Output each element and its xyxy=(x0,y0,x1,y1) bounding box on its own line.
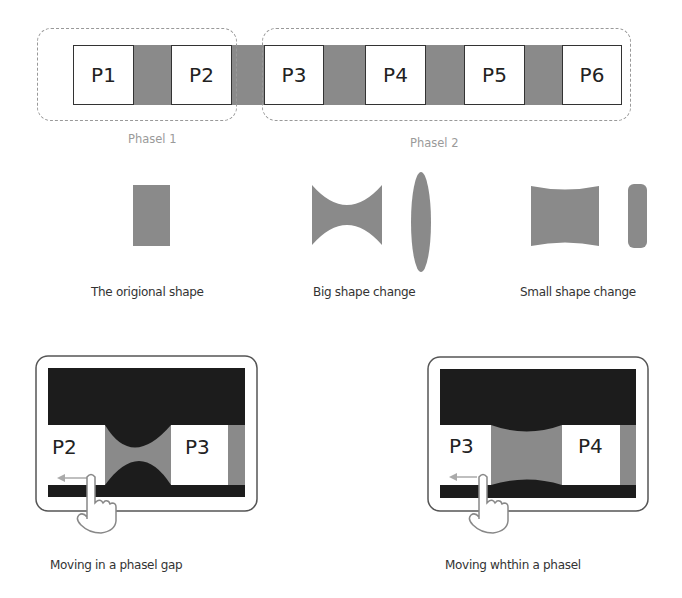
big-change-caption: Big shape change xyxy=(313,285,415,299)
tablet-2-left-panel-label: P3 xyxy=(449,434,474,458)
original-shape xyxy=(133,185,170,246)
tablet-1-right-panel-label: P3 xyxy=(185,435,210,459)
phasel-2-label: Phasel 2 xyxy=(410,136,459,150)
tablet-1-caption: Moving in a phasel gap xyxy=(50,558,182,572)
phasel-1-group xyxy=(37,28,237,121)
phasel-2-group xyxy=(262,28,631,121)
hand-pointer-icon xyxy=(75,473,125,533)
small-change-concave xyxy=(531,186,599,246)
big-change-ellipse xyxy=(410,172,432,272)
small-change-pill xyxy=(628,184,647,248)
big-change-hourglass xyxy=(312,185,382,245)
hand-pointer-icon xyxy=(467,473,517,533)
small-change-caption: Small shape change xyxy=(520,285,636,299)
tablet-2-right-panel-label: P4 xyxy=(578,434,603,458)
phasel-1-label: Phasel 1 xyxy=(128,132,177,146)
tablet-2-caption: Moving whthin a phasel xyxy=(445,558,581,572)
tablet-1-left-panel-label: P2 xyxy=(52,435,77,459)
tablet-frame xyxy=(35,355,258,512)
original-shape-caption: The origional shape xyxy=(91,285,204,299)
